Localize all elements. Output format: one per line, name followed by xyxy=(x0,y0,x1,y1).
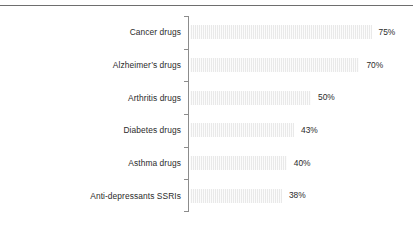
category-label: Arthritis drugs xyxy=(128,93,181,103)
bar-row: Cancer drugs75% xyxy=(0,16,413,49)
bar-row: Anti-depressants SSRIs38% xyxy=(0,179,413,212)
bar-row: Diabetes drugs43% xyxy=(0,114,413,147)
bar xyxy=(190,25,372,39)
bar-value-label: 70% xyxy=(366,61,383,69)
bar-value-label: 43% xyxy=(301,126,318,134)
axis-tick xyxy=(184,211,189,212)
bar-and-value: 43% xyxy=(190,123,318,137)
bar-and-value: 50% xyxy=(190,91,335,105)
bar-and-value: 38% xyxy=(190,189,306,203)
bar xyxy=(190,91,311,105)
category-label: Anti-depressants SSRIs xyxy=(90,191,181,201)
category-label: Diabetes drugs xyxy=(123,125,181,135)
axis-tick xyxy=(184,81,189,82)
bar xyxy=(190,156,287,170)
bar-value-label: 75% xyxy=(379,28,396,36)
bar-row: Arthritis drugs50% xyxy=(0,81,413,114)
plot-area: Cancer drugs75%Alzheimer’s drugs70%Arthr… xyxy=(0,16,413,212)
bar-and-value: 40% xyxy=(190,156,311,170)
top-divider-rule xyxy=(0,5,413,6)
bar-value-label: 40% xyxy=(294,159,311,167)
bar-and-value: 70% xyxy=(190,58,383,72)
category-label: Cancer drugs xyxy=(130,27,181,37)
axis-tick xyxy=(184,16,189,17)
bar-row: Alzheimer’s drugs70% xyxy=(0,49,413,82)
axis-tick xyxy=(184,147,189,148)
bar-rows-container: Cancer drugs75%Alzheimer’s drugs70%Arthr… xyxy=(0,16,413,212)
bar xyxy=(190,123,294,137)
bar-chart-figure: Cancer drugs75%Alzheimer’s drugs70%Arthr… xyxy=(0,0,413,226)
bar xyxy=(190,58,359,72)
category-label: Asthma drugs xyxy=(128,158,181,168)
bar-value-label: 38% xyxy=(289,191,306,199)
axis-tick xyxy=(184,114,189,115)
bar-row: Asthma drugs40% xyxy=(0,147,413,180)
axis-tick xyxy=(184,179,189,180)
bar xyxy=(190,189,282,203)
category-label: Alzheimer’s drugs xyxy=(113,60,181,70)
bar-and-value: 75% xyxy=(190,25,395,39)
axis-tick xyxy=(184,49,189,50)
bar-value-label: 50% xyxy=(318,93,335,101)
